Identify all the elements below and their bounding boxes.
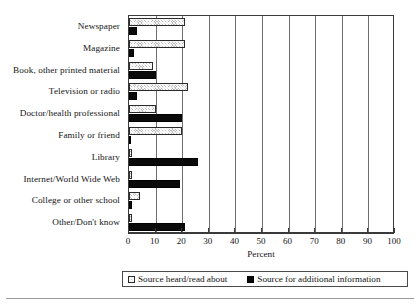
bar-group [129, 127, 393, 145]
category-label: Internet/World Wide Web [23, 174, 120, 184]
x-tick-mark [155, 228, 156, 233]
bar-additional-information [129, 49, 134, 57]
bar-heard-read-about [129, 18, 185, 26]
x-tick-mark [261, 228, 262, 233]
bar-group [129, 149, 393, 167]
x-tick-label: 80 [329, 236, 353, 246]
bar-heard-read-about [129, 171, 132, 179]
x-tick-label: 100 [382, 236, 406, 246]
x-tick-label: 40 [222, 236, 246, 246]
x-axis-title: Percent [128, 249, 394, 259]
bar-heard-read-about [129, 62, 153, 70]
solid-black-swatch-icon [247, 276, 254, 283]
category-label: Other/Don't know [52, 217, 120, 227]
plot-area [128, 15, 394, 233]
x-tick-mark [288, 228, 289, 233]
category-label: Doctor/health professional [20, 108, 120, 118]
category-axis-labels: NewspaperMagazineBook, other printed mat… [0, 15, 124, 233]
bar-additional-information [129, 114, 182, 122]
legend-label: Source for additional information [257, 274, 380, 284]
x-tick-label: 0 [116, 236, 140, 246]
x-tick-mark [181, 228, 182, 233]
category-label: Book, other printed material [13, 65, 120, 75]
bar-additional-information [129, 27, 137, 35]
bar-heard-read-about [129, 192, 140, 200]
bar-chart-figure: NewspaperMagazineBook, other printed mat… [0, 0, 420, 307]
category-label: Library [92, 152, 120, 162]
bar-additional-information [129, 136, 131, 144]
x-tick-label: 90 [355, 236, 379, 246]
legend-label: Source heard/read about [138, 274, 227, 284]
bar-heard-read-about [129, 127, 182, 135]
x-axis: Percent 0102030405060708090100 [128, 233, 394, 263]
bar-additional-information [129, 180, 180, 188]
bar-heard-read-about [129, 149, 132, 157]
bar-additional-information [129, 223, 185, 231]
bar-additional-information [129, 201, 132, 209]
bar-additional-information [129, 71, 156, 79]
x-tick-label: 30 [196, 236, 220, 246]
hatched-swatch-icon [128, 276, 135, 283]
footer-divider [6, 298, 414, 299]
bar-group [129, 18, 393, 36]
bar-group [129, 171, 393, 189]
bar-group [129, 105, 393, 123]
x-tick-label: 10 [143, 236, 167, 246]
category-label: Magazine [83, 43, 120, 53]
x-tick-mark [341, 228, 342, 233]
x-tick-mark [208, 228, 209, 233]
bar-group [129, 83, 393, 101]
x-tick-mark [128, 228, 129, 233]
x-tick-mark [367, 228, 368, 233]
bar-group [129, 62, 393, 80]
x-tick-label: 70 [302, 236, 326, 246]
bar-heard-read-about [129, 83, 188, 91]
bar-additional-information [129, 158, 198, 166]
bar-heard-read-about [129, 40, 185, 48]
x-tick-mark [394, 228, 395, 233]
legend-entry-additional-information: Source for additional information [247, 274, 380, 284]
x-tick-mark [234, 228, 235, 233]
category-label: Family or friend [58, 130, 120, 140]
x-tick-label: 60 [276, 236, 300, 246]
category-label: Television or radio [49, 86, 120, 96]
category-label: College or other school [32, 195, 120, 205]
bar-heard-read-about [129, 105, 156, 113]
chart-legend: Source heard/read about Source for addit… [122, 271, 408, 287]
bar-group [129, 192, 393, 210]
bar-group [129, 40, 393, 58]
bar-heard-read-about [129, 214, 132, 222]
x-axis-line [128, 233, 394, 234]
bar-additional-information [129, 92, 137, 100]
category-label: Newspaper [78, 21, 120, 31]
x-tick-label: 20 [169, 236, 193, 246]
x-tick-mark [314, 228, 315, 233]
bar-series-container [129, 16, 393, 232]
x-tick-label: 50 [249, 236, 273, 246]
legend-entry-heard-read-about: Source heard/read about [128, 274, 227, 284]
